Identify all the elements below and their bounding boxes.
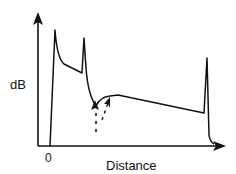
dashed-arrow-left-icon [91, 100, 99, 132]
dashed-arrow-right-icon [102, 97, 110, 120]
signal-trace [50, 30, 214, 146]
y-axis-label: dB [10, 78, 26, 91]
x-axis-label: Distance [106, 159, 157, 172]
otdr-diagram [0, 0, 236, 174]
origin-label: 0 [45, 152, 52, 164]
